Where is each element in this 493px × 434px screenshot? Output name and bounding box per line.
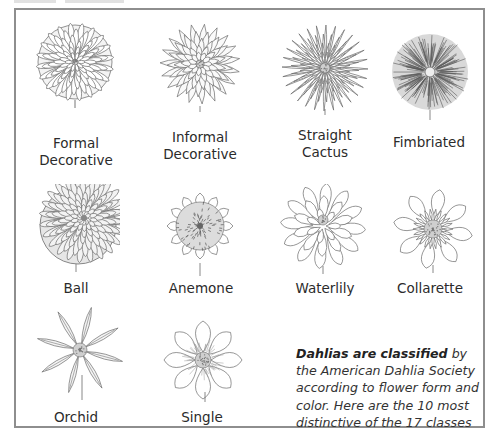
label-line: Informal bbox=[140, 129, 260, 146]
flower-collarette-illustration bbox=[393, 189, 473, 273]
label-line: Anemone bbox=[141, 280, 261, 297]
label-line: Collarette bbox=[370, 280, 490, 297]
flower-single-illustration bbox=[162, 320, 244, 402]
label-formal-decorative: Formal Decorative bbox=[16, 135, 136, 169]
label-line: Decorative bbox=[140, 146, 260, 163]
label-fimbriated: Fimbriated bbox=[369, 134, 489, 151]
label-collarette: Collarette bbox=[370, 280, 490, 297]
flower-anemone-illustration bbox=[158, 186, 242, 276]
flower-informal-decorative-illustration bbox=[155, 20, 245, 112]
flower-waterlily-illustration bbox=[280, 184, 366, 274]
label-line: Decorative bbox=[16, 152, 136, 169]
label-informal-decorative: Informal Decorative bbox=[140, 129, 260, 163]
classification-note: Dahlias are classified by the American D… bbox=[296, 345, 486, 434]
label-line: Ball bbox=[16, 280, 136, 297]
label-line: Single bbox=[142, 409, 262, 426]
label-straight-cactus: Straight Cactus bbox=[265, 127, 385, 161]
label-orchid: Orchid bbox=[16, 409, 136, 426]
label-line: Orchid bbox=[16, 409, 136, 426]
flower-orchid-illustration bbox=[30, 305, 130, 400]
label-waterlily: Waterlily bbox=[265, 280, 385, 297]
cropped-title bbox=[14, 0, 124, 3]
label-line: Waterlily bbox=[265, 280, 385, 297]
label-line: Formal bbox=[16, 135, 136, 152]
flower-straight-cactus-illustration bbox=[280, 25, 370, 115]
label-line: Straight bbox=[265, 127, 385, 144]
label-single: Single bbox=[142, 409, 262, 426]
note-bold-lead: Dahlias are classified bbox=[296, 346, 448, 361]
flower-fimbriated-illustration bbox=[388, 30, 472, 120]
label-anemone: Anemone bbox=[141, 280, 261, 297]
flower-formal-decorative-illustration bbox=[35, 20, 115, 108]
label-line: Cactus bbox=[265, 144, 385, 161]
flower-ball-illustration bbox=[36, 184, 120, 274]
label-line: Fimbriated bbox=[369, 134, 489, 151]
label-ball: Ball bbox=[16, 280, 136, 297]
